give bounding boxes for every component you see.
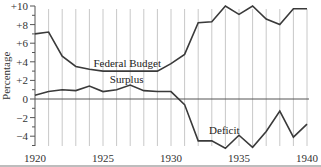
y-axis: +10+8+6+4+20−2−4 xyxy=(11,0,35,146)
y-tick-label: +8 xyxy=(16,19,28,31)
y-tick-label: +10 xyxy=(11,0,29,12)
y-tick-label: +4 xyxy=(16,56,28,68)
y-axis-label: Percentage xyxy=(0,52,12,100)
annotation-label: Surplus xyxy=(110,73,144,85)
annotation-label: Deficit xyxy=(209,124,240,136)
x-tick-label: 1925 xyxy=(92,152,115,164)
y-tick-label: 0 xyxy=(23,93,29,105)
x-tick-label: 1930 xyxy=(160,152,183,164)
x-tick-label: 1940 xyxy=(296,152,319,164)
y-tick-label: +2 xyxy=(16,74,28,86)
y-tick-label: −4 xyxy=(16,130,28,142)
y-tick-label: −2 xyxy=(16,112,28,124)
line-chart: +10+8+6+4+20−2−4 19201925193019351940 Pe… xyxy=(0,0,321,167)
annotations: Federal BudgetSurplusDeficit xyxy=(93,57,239,136)
x-tick-label: 1935 xyxy=(228,152,251,164)
x-axis-tick-labels: 19201925193019351940 xyxy=(24,152,319,164)
annotation-label: Federal Budget xyxy=(93,57,161,69)
vertical-gridlines xyxy=(49,9,307,146)
x-tick-label: 1920 xyxy=(24,152,47,164)
y-tick-label: +6 xyxy=(16,37,28,49)
